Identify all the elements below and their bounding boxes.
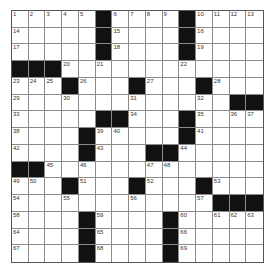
grid-cell[interactable] — [29, 44, 46, 61]
grid-cell[interactable]: 1 — [12, 11, 29, 28]
grid-cell[interactable] — [230, 44, 247, 61]
grid-cell[interactable] — [163, 95, 180, 112]
grid-cell[interactable] — [79, 44, 96, 61]
grid-cell[interactable] — [62, 128, 79, 145]
grid-cell[interactable] — [62, 44, 79, 61]
grid-cell[interactable] — [196, 212, 213, 229]
grid-cell[interactable]: 38 — [12, 128, 29, 145]
grid-cell[interactable] — [112, 145, 129, 162]
grid-cell[interactable] — [62, 111, 79, 128]
grid-cell[interactable]: 68 — [96, 245, 113, 262]
grid-cell[interactable] — [163, 111, 180, 128]
grid-cell[interactable] — [146, 212, 163, 229]
grid-cell[interactable] — [179, 95, 196, 112]
grid-cell[interactable] — [29, 128, 46, 145]
grid-cell[interactable] — [79, 28, 96, 45]
grid-cell[interactable] — [129, 145, 146, 162]
grid-cell[interactable] — [96, 162, 113, 179]
grid-cell[interactable] — [112, 195, 129, 212]
grid-cell[interactable]: 66 — [179, 229, 196, 246]
grid-cell[interactable] — [96, 95, 113, 112]
grid-cell[interactable]: 2 — [29, 11, 46, 28]
grid-cell[interactable] — [96, 178, 113, 195]
grid-cell[interactable]: 57 — [196, 195, 213, 212]
grid-cell[interactable] — [29, 245, 46, 262]
grid-cell[interactable] — [230, 128, 247, 145]
grid-cell[interactable]: 6 — [112, 11, 129, 28]
grid-cell[interactable]: 43 — [96, 145, 113, 162]
grid-cell[interactable]: 67 — [12, 245, 29, 262]
grid-cell[interactable]: 21 — [96, 61, 113, 78]
grid-cell[interactable] — [62, 229, 79, 246]
grid-cell[interactable] — [213, 28, 230, 45]
grid-cell[interactable] — [112, 178, 129, 195]
grid-cell[interactable] — [45, 145, 62, 162]
grid-cell[interactable]: 13 — [246, 11, 263, 28]
grid-cell[interactable] — [146, 245, 163, 262]
grid-cell[interactable]: 35 — [196, 111, 213, 128]
grid-cell[interactable] — [196, 61, 213, 78]
grid-cell[interactable] — [45, 178, 62, 195]
grid-cell[interactable]: 16 — [196, 28, 213, 45]
grid-cell[interactable] — [213, 229, 230, 246]
grid-cell[interactable]: 40 — [112, 128, 129, 145]
grid-cell[interactable]: 53 — [213, 178, 230, 195]
grid-cell[interactable]: 12 — [230, 11, 247, 28]
grid-cell[interactable] — [146, 28, 163, 45]
grid-cell[interactable]: 28 — [213, 78, 230, 95]
grid-cell[interactable] — [96, 195, 113, 212]
grid-cell[interactable] — [213, 145, 230, 162]
grid-cell[interactable]: 52 — [146, 178, 163, 195]
grid-cell[interactable] — [45, 212, 62, 229]
grid-cell[interactable] — [79, 61, 96, 78]
grid-cell[interactable]: 29 — [12, 95, 29, 112]
grid-cell[interactable]: 41 — [196, 128, 213, 145]
grid-cell[interactable] — [230, 178, 247, 195]
grid-cell[interactable]: 51 — [79, 178, 96, 195]
grid-cell[interactable]: 42 — [12, 145, 29, 162]
grid-cell[interactable] — [146, 95, 163, 112]
grid-cell[interactable]: 69 — [179, 245, 196, 262]
grid-cell[interactable]: 55 — [62, 195, 79, 212]
grid-cell[interactable]: 20 — [62, 61, 79, 78]
grid-cell[interactable]: 25 — [45, 78, 62, 95]
grid-cell[interactable] — [163, 61, 180, 78]
grid-cell[interactable]: 63 — [246, 212, 263, 229]
grid-cell[interactable] — [129, 229, 146, 246]
grid-cell[interactable]: 54 — [12, 195, 29, 212]
grid-cell[interactable] — [246, 44, 263, 61]
grid-cell[interactable] — [62, 245, 79, 262]
grid-cell[interactable] — [163, 44, 180, 61]
grid-cell[interactable] — [96, 78, 113, 95]
grid-cell[interactable]: 59 — [96, 212, 113, 229]
grid-cell[interactable] — [146, 229, 163, 246]
grid-cell[interactable]: 24 — [29, 78, 46, 95]
grid-cell[interactable]: 62 — [230, 212, 247, 229]
grid-cell[interactable]: 26 — [79, 78, 96, 95]
grid-cell[interactable]: 27 — [146, 78, 163, 95]
grid-cell[interactable] — [62, 145, 79, 162]
grid-cell[interactable] — [62, 162, 79, 179]
grid-cell[interactable]: 47 — [146, 162, 163, 179]
grid-cell[interactable] — [112, 162, 129, 179]
grid-cell[interactable] — [146, 111, 163, 128]
grid-cell[interactable] — [112, 229, 129, 246]
grid-cell[interactable] — [230, 162, 247, 179]
grid-cell[interactable] — [246, 61, 263, 78]
grid-cell[interactable] — [45, 95, 62, 112]
grid-cell[interactable]: 5 — [79, 11, 96, 28]
grid-cell[interactable] — [45, 44, 62, 61]
grid-cell[interactable]: 22 — [179, 61, 196, 78]
grid-cell[interactable]: 37 — [246, 111, 263, 128]
grid-cell[interactable] — [129, 212, 146, 229]
grid-cell[interactable] — [230, 28, 247, 45]
grid-cell[interactable]: 64 — [12, 229, 29, 246]
grid-cell[interactable]: 65 — [96, 229, 113, 246]
grid-cell[interactable]: 39 — [96, 128, 113, 145]
grid-cell[interactable] — [213, 61, 230, 78]
grid-cell[interactable] — [246, 128, 263, 145]
grid-cell[interactable] — [246, 162, 263, 179]
grid-cell[interactable] — [146, 44, 163, 61]
grid-cell[interactable] — [45, 245, 62, 262]
grid-cell[interactable] — [179, 178, 196, 195]
